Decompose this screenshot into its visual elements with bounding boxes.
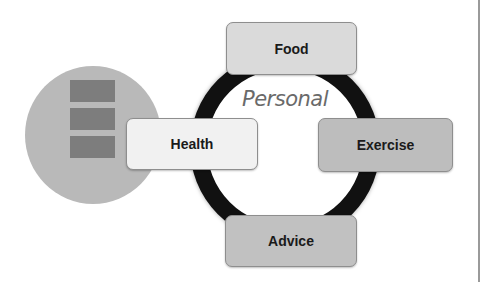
stack-block-1 xyxy=(70,80,115,102)
node-health: Health xyxy=(126,118,258,170)
node-advice: Advice xyxy=(225,215,357,267)
node-exercise: Exercise xyxy=(318,118,453,172)
diagram-canvas: Personal Food Health Exercise Advice xyxy=(0,0,481,282)
node-health-label: Health xyxy=(171,136,214,152)
node-advice-label: Advice xyxy=(268,233,314,249)
node-food-label: Food xyxy=(274,41,308,57)
node-food: Food xyxy=(226,22,357,75)
center-label: Personal xyxy=(235,87,335,111)
node-exercise-label: Exercise xyxy=(357,137,415,153)
stack-block-2 xyxy=(70,108,115,130)
stack-block-3 xyxy=(70,136,115,158)
right-border-line xyxy=(478,0,480,282)
